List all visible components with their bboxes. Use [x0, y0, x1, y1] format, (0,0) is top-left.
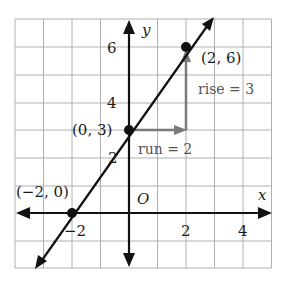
point-label-0-3: (0, 3): [72, 121, 112, 139]
coordinate-plane: 6 4 2 −2 2 4 y x O (−2, 0) (0, 3) (2, 6)…: [0, 0, 294, 281]
x-tick-2: 2: [181, 222, 191, 240]
y-axis-up-arrow-icon: [123, 20, 135, 34]
x-axis-left-arrow-icon: [16, 207, 30, 219]
x-axis-right-arrow-icon: [258, 207, 272, 219]
y-tick-6: 6: [107, 39, 117, 57]
x-tick-neg2: −2: [64, 222, 86, 240]
point-label-2-6: (2, 6): [201, 49, 241, 67]
run-label: run = 2: [138, 141, 192, 157]
point-0-3: [124, 125, 134, 135]
y-axis-label: y: [141, 21, 151, 39]
y-tick-2: 2: [108, 149, 118, 167]
point-neg2-0: [67, 208, 77, 218]
point-label-neg2-0: (−2, 0): [16, 183, 69, 201]
y-tick-4: 4: [107, 94, 117, 112]
origin-label: O: [137, 190, 149, 208]
x-axis-label: x: [258, 186, 267, 204]
rise-label: rise = 3: [198, 81, 254, 97]
x-tick-4: 4: [238, 222, 248, 240]
point-2-6: [181, 42, 191, 52]
y-axis-down-arrow-icon: [123, 253, 135, 267]
